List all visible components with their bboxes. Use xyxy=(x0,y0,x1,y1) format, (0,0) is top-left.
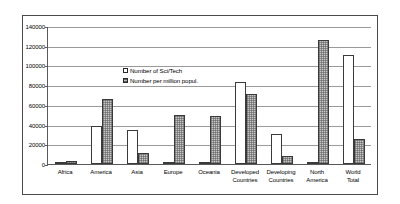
chart-legend: Number of Sci/TechNumber per million pop… xyxy=(123,66,198,86)
legend-entry: Number per million popul. xyxy=(123,76,198,85)
x-axis-category-label: Developed Countries xyxy=(227,169,263,184)
bar-group xyxy=(336,27,372,164)
legend-swatch-icon xyxy=(123,68,128,73)
bar-group xyxy=(48,27,84,164)
legend-swatch-icon xyxy=(123,78,128,83)
bar-group xyxy=(84,27,120,164)
bar-group xyxy=(192,27,228,164)
bar xyxy=(210,116,221,164)
bar xyxy=(246,94,257,164)
bar xyxy=(55,162,66,164)
bar xyxy=(271,134,282,164)
bar xyxy=(318,40,329,164)
x-axis-category-label: Asia xyxy=(119,169,155,177)
y-axis-tick-label: 80000 xyxy=(29,83,45,89)
legend-label: Number per million popul. xyxy=(130,77,198,84)
x-axis-category-label: World Total xyxy=(335,169,371,184)
y-axis-tick-label: 20000 xyxy=(29,142,45,148)
plot-area: Number of Sci/TechNumber per million pop… xyxy=(47,27,371,165)
bar xyxy=(174,115,185,164)
bar xyxy=(91,126,102,164)
y-axis-tick-label: 40000 xyxy=(29,123,45,129)
legend-label: Number of Sci/Tech xyxy=(130,67,182,74)
y-axis-tick-label: 60000 xyxy=(29,103,45,109)
y-axis-tick-labels: 140000120000100000800006000040000200000 xyxy=(22,27,45,165)
bar xyxy=(282,156,293,164)
legend-entry: Number of Sci/Tech xyxy=(123,66,198,75)
bar xyxy=(343,55,354,164)
x-axis-category-label: America xyxy=(83,169,119,177)
bar xyxy=(138,153,149,164)
bar xyxy=(163,162,174,164)
y-axis-tick-label: 100000 xyxy=(26,63,45,69)
bar-group xyxy=(300,27,336,164)
chart-figure: 140000120000100000800006000040000200000 … xyxy=(0,0,400,204)
bar-group xyxy=(120,27,156,164)
bar xyxy=(66,161,77,164)
bar-group xyxy=(228,27,264,164)
bar xyxy=(102,99,113,164)
x-axis-category-label: Oceania xyxy=(191,169,227,177)
y-axis-tick-mark xyxy=(45,165,48,166)
bar-group xyxy=(156,27,192,164)
x-axis-category-label: Developing Countries xyxy=(263,169,299,184)
bars-layer xyxy=(48,27,371,164)
bar xyxy=(354,139,365,164)
x-axis-category-label: Europe xyxy=(155,169,191,177)
bar xyxy=(307,162,318,164)
x-axis-category-label: Africa xyxy=(47,169,83,177)
bar xyxy=(199,162,210,164)
bar xyxy=(235,82,246,164)
x-axis-category-label: North America xyxy=(299,169,335,184)
y-axis-tick-label: 140000 xyxy=(26,24,45,30)
bar xyxy=(127,130,138,165)
x-axis-category-labels: AfricaAmericaAsiaEuropeOceaniaDeveloped … xyxy=(47,169,371,193)
bar-group xyxy=(264,27,300,164)
y-axis-tick-label: 120000 xyxy=(26,44,45,50)
